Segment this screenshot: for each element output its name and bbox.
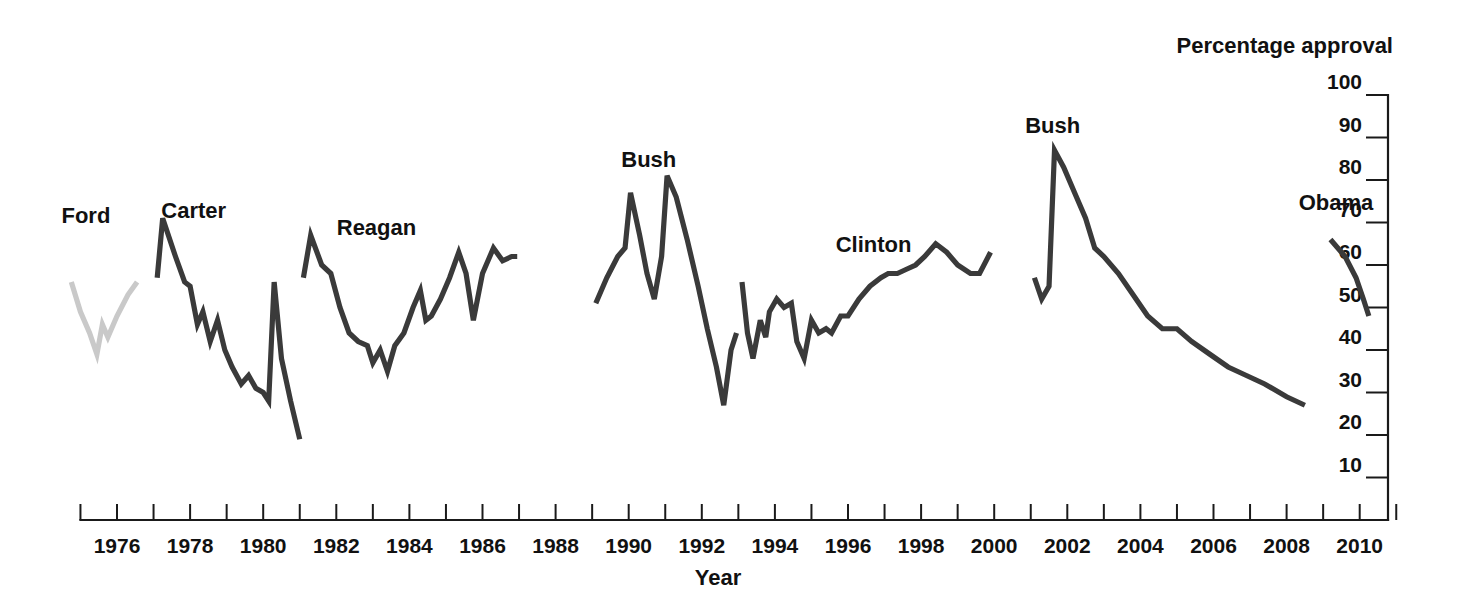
x-axis-tick-label: 1978 bbox=[167, 534, 214, 557]
y-axis-tick-label: 10 bbox=[1339, 453, 1362, 476]
x-axis-tick-label: 1976 bbox=[94, 534, 141, 557]
y-axis-tick-label: 100 bbox=[1327, 70, 1362, 93]
y-axis-tick-label: 40 bbox=[1339, 325, 1362, 348]
y-axis-title: Percentage approval bbox=[1177, 33, 1393, 58]
x-axis-tick-label: 1996 bbox=[825, 534, 872, 557]
x-axis-title: Year bbox=[695, 565, 742, 590]
x-axis-tick-label: 2000 bbox=[971, 534, 1018, 557]
series-label-reagan-2: Reagan bbox=[337, 215, 416, 240]
x-axis-tick-label: 1984 bbox=[386, 534, 433, 557]
labels-layer: FordCarterReaganBushClintonBushObama bbox=[61, 113, 1374, 257]
x-axis-tick-label: 2010 bbox=[1336, 534, 1383, 557]
series-line-clinton-4 bbox=[742, 244, 991, 359]
series-line-bush-5 bbox=[1034, 150, 1304, 405]
approval-rating-chart: 1020304050607080901001976197819801982198… bbox=[0, 0, 1470, 615]
x-axis-tick-label: 2002 bbox=[1044, 534, 1091, 557]
series-line-bush-3 bbox=[596, 176, 737, 406]
y-axis-tick-label: 30 bbox=[1339, 368, 1362, 391]
x-axis-tick-label: 2004 bbox=[1117, 534, 1164, 557]
series-label-bush-5: Bush bbox=[1025, 113, 1080, 138]
x-axis-tick-label: 1982 bbox=[313, 534, 360, 557]
series-line-ford-0 bbox=[71, 282, 137, 354]
x-axis-tick-label: 1992 bbox=[678, 534, 725, 557]
x-axis-tick-label: 1980 bbox=[240, 534, 287, 557]
x-axis-tick-label: 1994 bbox=[752, 534, 799, 557]
y-axis-tick-label: 80 bbox=[1339, 155, 1362, 178]
series-label-ford-0: Ford bbox=[61, 203, 110, 228]
y-axis-tick-label: 20 bbox=[1339, 410, 1362, 433]
x-axis-tick-label: 1986 bbox=[459, 534, 506, 557]
series-layer bbox=[71, 150, 1369, 439]
series-label-carter-1: Carter bbox=[161, 198, 226, 223]
x-axis-tick-label: 1988 bbox=[532, 534, 579, 557]
series-label-clinton-4: Clinton bbox=[836, 232, 912, 257]
x-axis-tick-label: 1998 bbox=[898, 534, 945, 557]
y-axis-tick-label: 90 bbox=[1339, 113, 1362, 136]
chart-svg: 1020304050607080901001976197819801982198… bbox=[0, 0, 1470, 615]
series-line-reagan-2 bbox=[303, 235, 517, 371]
x-axis-tick-label: 2008 bbox=[1263, 534, 1310, 557]
series-label-bush-3: Bush bbox=[621, 147, 676, 172]
series-line-carter-1 bbox=[157, 218, 300, 439]
series-label-obama-6: Obama bbox=[1299, 190, 1374, 215]
x-axis-tick-label: 1990 bbox=[605, 534, 652, 557]
x-axis-tick-label: 2006 bbox=[1190, 534, 1237, 557]
